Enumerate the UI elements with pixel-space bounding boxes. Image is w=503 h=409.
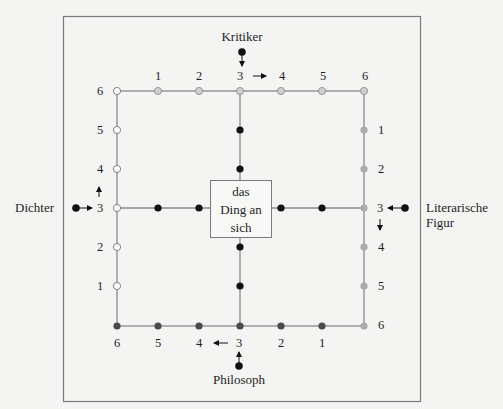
svg-text:1: 1 xyxy=(97,279,103,293)
svg-text:4: 4 xyxy=(378,240,385,254)
label-dichter: Dichter xyxy=(15,200,55,215)
literarische-figur-dot xyxy=(401,204,409,212)
philosoph-dot xyxy=(235,362,243,370)
svg-text:4: 4 xyxy=(279,69,286,83)
svg-text:3: 3 xyxy=(237,69,243,83)
svg-text:1: 1 xyxy=(378,123,384,137)
svg-text:2: 2 xyxy=(196,69,202,83)
svg-text:1: 1 xyxy=(319,336,325,350)
center-box: das Ding an sich xyxy=(211,181,272,238)
svg-text:1: 1 xyxy=(155,69,161,83)
center-box-line1: das xyxy=(232,184,249,199)
svg-text:2: 2 xyxy=(378,162,384,176)
kritiker-dot xyxy=(238,48,246,56)
svg-text:2: 2 xyxy=(97,240,103,254)
svg-text:5: 5 xyxy=(155,336,161,350)
svg-text:4: 4 xyxy=(196,336,203,350)
svg-text:6: 6 xyxy=(378,318,384,332)
svg-text:5: 5 xyxy=(320,69,326,83)
svg-text:6: 6 xyxy=(362,69,368,83)
svg-text:5: 5 xyxy=(97,123,103,137)
svg-text:6: 6 xyxy=(114,336,120,350)
center-box-line2: Ding an xyxy=(220,202,262,217)
label-philosoph: Philosoph xyxy=(213,372,266,387)
svg-text:2: 2 xyxy=(278,336,284,350)
left-numbers: 6 5 4 3 2 1 xyxy=(97,84,104,293)
svg-text:4: 4 xyxy=(97,162,104,176)
center-box-line3: sich xyxy=(231,220,252,235)
diagram-canvas: das Ding an sich xyxy=(0,0,503,409)
svg-text:3: 3 xyxy=(236,336,242,350)
label-figur: Figur xyxy=(426,215,455,230)
svg-text:3: 3 xyxy=(97,201,103,215)
svg-text:6: 6 xyxy=(97,84,103,98)
label-literarische: Literarische xyxy=(426,200,488,215)
label-kritiker: Kritiker xyxy=(221,29,263,44)
right-numbers: 1 2 3 4 5 6 xyxy=(377,123,385,332)
dichter-dot xyxy=(72,204,80,212)
svg-text:3: 3 xyxy=(377,201,383,215)
svg-text:5: 5 xyxy=(378,279,384,293)
